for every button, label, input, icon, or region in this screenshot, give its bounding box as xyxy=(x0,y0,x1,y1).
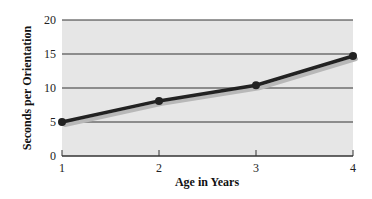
x-tick-label: 4 xyxy=(350,161,356,175)
x-tick-label: 3 xyxy=(253,161,259,175)
y-tick-label: 20 xyxy=(44,13,56,27)
data-point xyxy=(58,118,66,126)
data-point xyxy=(252,81,260,89)
x-tick-label: 1 xyxy=(59,161,65,175)
x-axis-label: Age in Years xyxy=(175,175,240,189)
y-tick-label: 10 xyxy=(44,81,56,95)
y-tick-label: 15 xyxy=(44,47,56,61)
line-chart: 05101520 1234 Age in Years Seconds per O… xyxy=(0,0,372,199)
y-axis-label: Seconds per Orientation xyxy=(20,25,34,150)
y-tick-label: 5 xyxy=(50,115,56,129)
y-tick-label: 0 xyxy=(50,149,56,163)
data-point xyxy=(349,52,357,60)
x-tick-label: 2 xyxy=(156,161,162,175)
y-axis-ticks: 05101520 xyxy=(44,13,56,163)
data-point xyxy=(155,97,163,105)
